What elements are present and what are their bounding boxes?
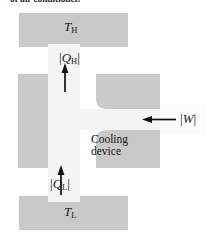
- heat-in-label: |QL|: [50, 177, 70, 191]
- work-symbol: W: [183, 111, 194, 126]
- work-bar-right: |: [194, 111, 197, 126]
- heat-in-symbol: Q: [53, 176, 62, 191]
- heat-out-symbol: Q: [62, 50, 71, 65]
- device-label-line1: Cooling: [91, 133, 128, 145]
- heat-in-bar-right: |: [67, 176, 70, 191]
- work-input-label: |W|: [180, 112, 196, 126]
- hot-reservoir-label: TH: [64, 20, 77, 34]
- figure-container: of air conditioner.: [0, 0, 210, 239]
- cooling-device-diagram: [0, 0, 210, 239]
- heat-out-label: |QH|: [59, 51, 80, 65]
- cold-reservoir-label: TL: [64, 205, 76, 219]
- device-label-line2: device: [91, 145, 128, 157]
- device-label: Cooling device: [91, 133, 128, 157]
- upper-right-body-block: [96, 74, 160, 109]
- heat-out-bar-right: |: [77, 50, 80, 65]
- hot-reservoir-subscript: H: [71, 25, 77, 35]
- cold-reservoir-subscript: L: [71, 210, 76, 220]
- left-body-block: [18, 74, 48, 168]
